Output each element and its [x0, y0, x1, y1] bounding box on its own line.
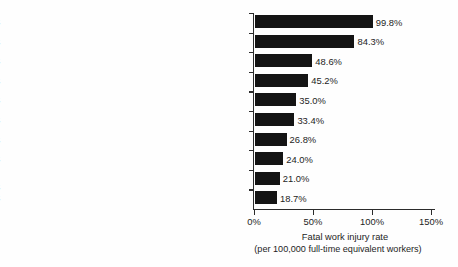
- bar-value-label: 24.0%: [286, 154, 313, 165]
- x-axis-tick: [372, 210, 373, 215]
- x-axis-tick-label: 0%: [247, 216, 261, 227]
- bar-chart: Fishers and related fishing workers99.8%…: [0, 0, 458, 267]
- y-axis-tick: [249, 170, 254, 171]
- y-axis-tick: [249, 33, 254, 34]
- bar: [255, 113, 294, 126]
- x-axis-tick-label: 100%: [360, 216, 384, 227]
- bar: [255, 93, 296, 106]
- x-axis-title-line2: (per 100,000 full-time equivalent worker…: [239, 243, 437, 255]
- bar-value-label: 18.7%: [280, 193, 307, 204]
- bar: [255, 54, 312, 67]
- bar-value-label: 84.3%: [357, 36, 384, 47]
- x-axis-tick: [313, 210, 314, 215]
- x-axis-tick-label: 50%: [304, 216, 323, 227]
- x-axis-tick: [431, 210, 432, 215]
- x-axis-line: [253, 209, 435, 210]
- bar-value-label: 21.0%: [283, 173, 310, 184]
- bar-value-label: 33.4%: [297, 115, 324, 126]
- x-axis-tick-label: 150%: [419, 216, 443, 227]
- bar: [255, 35, 354, 48]
- x-axis-title: Fatal work injury rate (per 100,000 full…: [253, 231, 437, 255]
- bar-value-label: 26.8%: [290, 134, 317, 145]
- bar-value-label: 35.0%: [299, 95, 326, 106]
- bar: [255, 152, 283, 165]
- bar: [255, 133, 287, 146]
- y-axis-tick: [249, 150, 254, 151]
- bar: [255, 15, 373, 28]
- x-axis-title-line1: Fatal work injury rate: [302, 232, 388, 242]
- x-axis-tick: [254, 210, 255, 215]
- y-axis-tick: [249, 13, 254, 14]
- bar: [255, 74, 308, 87]
- y-axis-tick: [249, 189, 254, 190]
- bar: [255, 191, 277, 204]
- bar-value-label: 99.8%: [376, 17, 403, 28]
- bar-value-label: 48.6%: [315, 56, 342, 67]
- bar: [255, 172, 280, 185]
- bar-value-label: 45.2%: [311, 75, 338, 86]
- y-axis-tick: [249, 52, 254, 53]
- y-axis-tick: [249, 111, 254, 112]
- y-axis-tick: [249, 72, 254, 73]
- plot-area: Fishers and related fishing workers99.8%…: [0, 0, 458, 267]
- y-axis-tick: [249, 131, 254, 132]
- y-axis-tick: [249, 91, 254, 92]
